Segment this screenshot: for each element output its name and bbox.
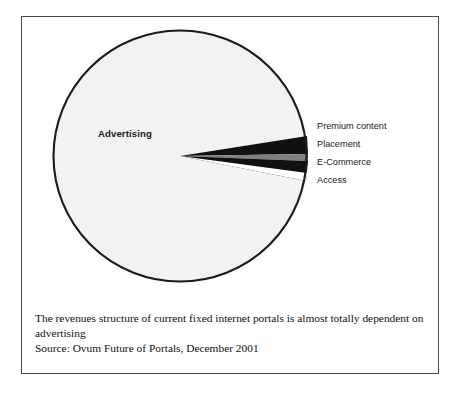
figure-caption: The revenues structure of current fixed … bbox=[35, 311, 431, 357]
pie-chart-svg bbox=[52, 23, 312, 305]
callout-label-access: Access bbox=[317, 171, 437, 189]
caption-description: The revenues structure of current fixed … bbox=[35, 311, 431, 341]
callout-label-placement: Placement bbox=[317, 135, 437, 153]
callout-label-premium-content: Premium content bbox=[317, 117, 437, 135]
caption-source: Source: Ovum Future of Portals, December… bbox=[35, 341, 431, 356]
pie-label-advertising: Advertising bbox=[98, 128, 152, 139]
figure-frame: Advertising Premium content Placement E-… bbox=[21, 16, 439, 374]
callout-label-ecommerce: E-Commerce bbox=[317, 153, 437, 171]
pie-callout-legend: Premium content Placement E-Commerce Acc… bbox=[317, 117, 437, 189]
